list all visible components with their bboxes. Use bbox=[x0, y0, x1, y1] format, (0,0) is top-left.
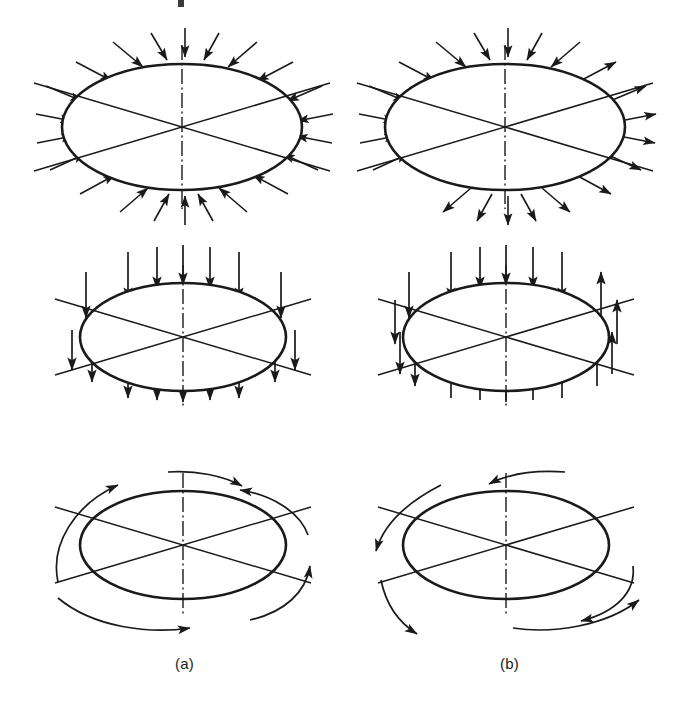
cell-row2-a bbox=[55, 245, 311, 409]
cell-row3-b bbox=[376, 472, 639, 635]
disk-a3 bbox=[55, 473, 311, 617]
disk-b2 bbox=[378, 265, 634, 409]
cell-row2-b bbox=[378, 245, 634, 409]
disk-b3 bbox=[378, 473, 634, 617]
caption-a: (a) bbox=[175, 655, 194, 672]
cell-row1-b bbox=[357, 28, 656, 225]
cell-row1-a bbox=[34, 28, 333, 225]
stress-state-figure: (a) (b) bbox=[0, 0, 679, 702]
page-text-remnant bbox=[178, 0, 184, 7]
diagram-canvas bbox=[0, 0, 679, 702]
disk-b1 bbox=[357, 45, 653, 209]
cell-row3-a bbox=[55, 472, 311, 630]
disk-a2 bbox=[55, 265, 311, 409]
caption-b: (b) bbox=[500, 655, 519, 672]
disk-a1 bbox=[34, 45, 330, 209]
